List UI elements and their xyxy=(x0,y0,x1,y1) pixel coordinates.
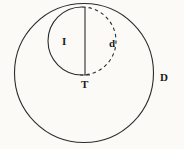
label-outer-circle: D xyxy=(160,72,168,83)
label-inner-left-arc: I xyxy=(62,36,66,47)
figure-canvas xyxy=(0,0,184,149)
outer-circle-d xyxy=(15,4,154,143)
geometry-figure: I d T D xyxy=(0,0,184,149)
label-inner-right-arc: d xyxy=(109,38,115,49)
label-bottom-point: T xyxy=(81,79,88,90)
